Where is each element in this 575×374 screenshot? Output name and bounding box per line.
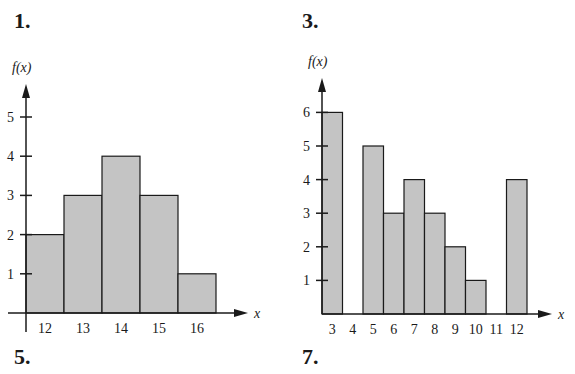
histogram-bar bbox=[507, 180, 528, 314]
y-tick-label: 2 bbox=[303, 240, 310, 255]
y-tick-label: 1 bbox=[303, 273, 310, 288]
y-tick-label: 5 bbox=[303, 139, 310, 154]
x-tick-label: 8 bbox=[431, 322, 438, 337]
y-axis-arrow-icon bbox=[318, 78, 326, 92]
x-tick-label: 12 bbox=[510, 322, 524, 337]
x-tick-label: 4 bbox=[349, 322, 356, 337]
x-tick-label: 11 bbox=[490, 322, 503, 337]
histogram-3: 3456789101112xf(x)123456 bbox=[0, 0, 575, 374]
y-tick-label: 3 bbox=[303, 206, 310, 221]
x-tick-label: 10 bbox=[469, 322, 483, 337]
x-tick-label: 9 bbox=[452, 322, 459, 337]
histogram-bar bbox=[404, 180, 425, 314]
histogram-bar bbox=[363, 146, 384, 314]
y-tick-label: 4 bbox=[303, 173, 310, 188]
x-axis-label: x bbox=[557, 307, 565, 322]
histogram-bar bbox=[384, 213, 405, 314]
y-tick-label: 6 bbox=[303, 105, 310, 120]
x-tick-label: 7 bbox=[411, 322, 418, 337]
histogram-bar bbox=[466, 280, 487, 314]
histogram-bar bbox=[425, 213, 446, 314]
x-axis-arrow-icon bbox=[538, 310, 552, 318]
histogram-bar bbox=[445, 247, 466, 314]
x-tick-label: 6 bbox=[390, 322, 397, 337]
x-tick-label: 5 bbox=[370, 322, 377, 337]
x-tick-label: 3 bbox=[329, 322, 336, 337]
y-axis-label: f(x) bbox=[308, 54, 328, 70]
